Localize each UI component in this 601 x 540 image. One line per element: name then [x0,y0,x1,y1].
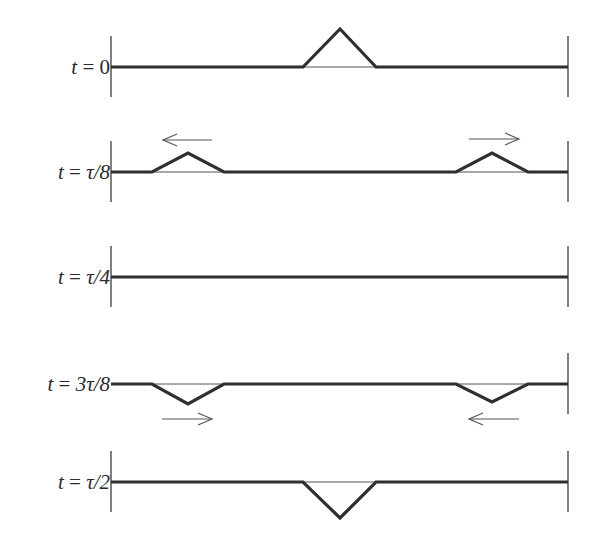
row-label-t-3tau-8: t = 3τ/8 [5,374,110,395]
label-value: τ/4 [86,265,110,289]
label-value: 0 [100,55,111,79]
string-wave-diagram: t = 0 t = τ/8 t = τ/4 t = 3τ/8 t = τ/2 [0,0,601,540]
row-label-t-tau-4: t = τ/4 [5,267,110,288]
string-displacement [111,153,568,172]
string-displacement [111,29,568,67]
label-value: τ/2 [86,470,110,494]
label-value: τ/8 [86,160,110,184]
row-label-t-tau-2: t = τ/2 [5,472,110,493]
label-equals: = [77,55,99,79]
string-displacement [111,384,568,404]
label-equals: = [64,470,86,494]
label-equals: = [53,372,75,396]
label-equals: = [64,265,86,289]
label-value: 3τ/8 [76,372,110,396]
string-displacement [111,482,568,518]
label-equals: = [64,160,86,184]
row-label-t0: t = 0 [5,57,110,78]
row-label-t-tau-8: t = τ/8 [5,162,110,183]
